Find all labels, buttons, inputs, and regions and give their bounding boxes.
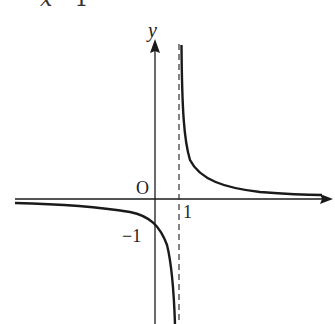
- curve-right-branch: [182, 45, 323, 195]
- y-axis-arrow-icon: [150, 39, 160, 53]
- y-axis-label: y: [148, 20, 157, 40]
- curve-left-branch: [15, 203, 175, 324]
- y-tick-label: −1: [122, 227, 141, 245]
- hyperbola-graph: [0, 0, 335, 324]
- x-tick-label: 1: [183, 203, 192, 221]
- origin-label: O: [136, 179, 149, 197]
